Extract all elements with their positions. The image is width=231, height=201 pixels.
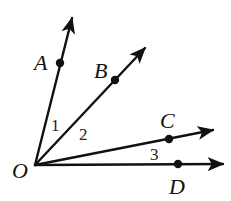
angle-label-3: 3 (150, 145, 159, 164)
ray-oa (35, 18, 72, 165)
diagram-svg: ABCDO123 (0, 0, 231, 201)
point-d-dot (174, 160, 182, 168)
point-c-dot (165, 135, 173, 143)
point-b-dot (111, 76, 119, 84)
labels-group: ABCDO123 (12, 50, 185, 199)
vertex-label-o: O (12, 158, 28, 183)
angle-label-1: 1 (51, 116, 60, 135)
rays-group (35, 18, 223, 168)
point-label-c: C (160, 108, 175, 133)
point-label-d: D (168, 174, 185, 199)
geometry-diagram: ABCDO123 (0, 0, 231, 201)
point-a-dot (56, 59, 64, 67)
ray-od (35, 164, 223, 165)
angle-label-2: 2 (79, 125, 88, 144)
point-label-b: B (94, 58, 107, 83)
point-label-a: A (32, 50, 48, 75)
